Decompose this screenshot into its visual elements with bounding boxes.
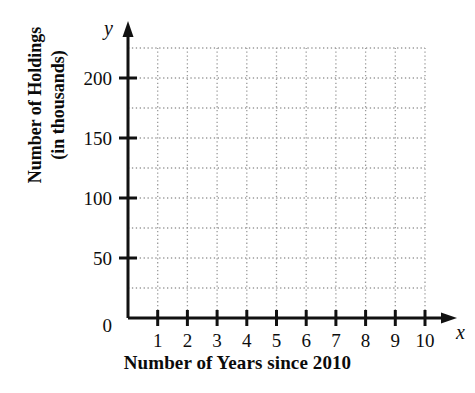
x-tick-label: 2: [183, 331, 193, 350]
y-tick-label: 0: [50, 316, 112, 335]
x-tick-label: 4: [242, 331, 252, 350]
x-tick-label: 3: [212, 331, 222, 350]
x-tick-label: 8: [361, 331, 371, 350]
x-tick-label: 7: [331, 331, 341, 350]
graph-figure: y x 050100150200 12345678910 Number of Y…: [0, 0, 475, 393]
y-tick-label: 50: [50, 249, 112, 268]
y-axis-title: Number of Holdings (in thousands): [20, 0, 74, 220]
y-axis-arrowhead: [123, 21, 134, 37]
x-axis-variable-label: x: [456, 322, 465, 342]
y-axis-variable-label: y: [104, 18, 113, 38]
x-axis-title: Number of Years since 2010: [0, 352, 475, 374]
y-axis-title-line-2: (in thousands): [47, 50, 70, 160]
x-tick-label: 9: [391, 331, 401, 350]
x-axis-arrowhead: [441, 313, 457, 324]
x-tick-label: 5: [272, 331, 282, 350]
vertical-gridlines: [158, 48, 425, 318]
x-tick-label: 10: [416, 331, 435, 350]
x-tick-label: 1: [153, 331, 163, 350]
x-tick-label: 6: [301, 331, 311, 350]
y-axis-title-line-1: Number of Holdings: [24, 27, 47, 184]
